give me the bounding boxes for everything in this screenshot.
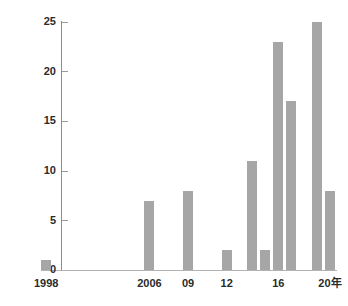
x-axis-label-2020: 20年 (318, 277, 341, 289)
x-axis-label-2016: 16 (272, 277, 284, 289)
x-axis-labels: 1998200609121620年 (0, 0, 348, 306)
x-axis-label-2009: 09 (182, 277, 194, 289)
bar-chart: 25 20 15 10 5 0 1998200609121620年 (0, 0, 348, 306)
x-axis-label-1998: 1998 (34, 277, 58, 289)
x-axis-label-2012: 12 (221, 277, 233, 289)
x-axis-label-2006: 2006 (137, 277, 161, 289)
